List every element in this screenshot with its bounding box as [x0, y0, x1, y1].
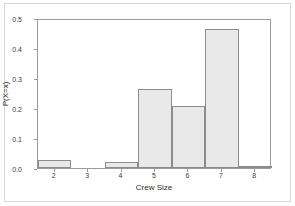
x-axis-label: Crew Size: [37, 183, 271, 192]
x-tick-label: 4: [111, 172, 131, 179]
y-tick-mark: [34, 49, 37, 50]
y-tick-mark: [34, 79, 37, 80]
y-tick-label: 0.2: [0, 106, 22, 113]
x-tick-mark: [87, 169, 88, 172]
y-tick-mark: [34, 169, 37, 170]
y-tick-label: 0.0: [0, 166, 22, 173]
x-tick-label: 6: [177, 172, 197, 179]
x-tick-mark: [221, 169, 222, 172]
x-tick-mark: [121, 169, 122, 172]
x-tick-mark: [254, 169, 255, 172]
x-tick-label: 5: [144, 172, 164, 179]
bar: [172, 106, 205, 168]
y-axis-label: P(X=x): [1, 82, 10, 107]
x-tick-label: 3: [77, 172, 97, 179]
bar: [38, 160, 71, 168]
chart-figure: 0.00.10.20.30.40.5 2345678 Crew Size P(X…: [0, 0, 295, 206]
y-tick-label: 0.4: [0, 46, 22, 53]
x-tick-label: 7: [211, 172, 231, 179]
x-tick-label: 2: [44, 172, 64, 179]
x-tick-label: 8: [244, 172, 264, 179]
bar: [105, 162, 138, 168]
bar: [239, 166, 272, 168]
y-tick-label: 0.5: [0, 16, 22, 23]
x-tick-mark: [54, 169, 55, 172]
y-tick-label: 0.1: [0, 136, 22, 143]
bar: [205, 29, 238, 168]
x-tick-mark: [187, 169, 188, 172]
bar: [138, 89, 171, 168]
y-tick-mark: [34, 109, 37, 110]
plot-area: [37, 19, 271, 169]
x-tick-mark: [154, 169, 155, 172]
y-tick-mark: [34, 19, 37, 20]
y-tick-mark: [34, 139, 37, 140]
bar-series: [38, 20, 270, 168]
